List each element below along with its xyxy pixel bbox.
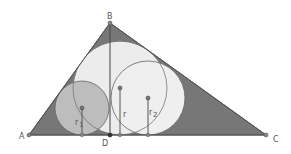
foot-r2-point <box>146 133 150 137</box>
vertex-c-point <box>264 133 268 137</box>
label-d: D <box>102 139 108 148</box>
label-a: A <box>19 132 25 141</box>
label-c: C <box>273 135 279 144</box>
label-r1-subscript: 1 <box>79 121 83 129</box>
center-r2-point <box>146 96 150 100</box>
vertex-b-point <box>108 21 112 25</box>
foot-r1-point <box>80 133 84 137</box>
label-b: B <box>107 12 113 21</box>
center-r-point <box>118 86 122 90</box>
foot-r-point <box>118 133 122 137</box>
point-d <box>108 133 112 137</box>
center-r1-point <box>80 106 84 110</box>
geometry-diagram: A B C D r r 1 r 2 <box>0 0 291 154</box>
vertex-a-point <box>27 133 31 137</box>
label-r2-subscript: 2 <box>153 111 157 119</box>
